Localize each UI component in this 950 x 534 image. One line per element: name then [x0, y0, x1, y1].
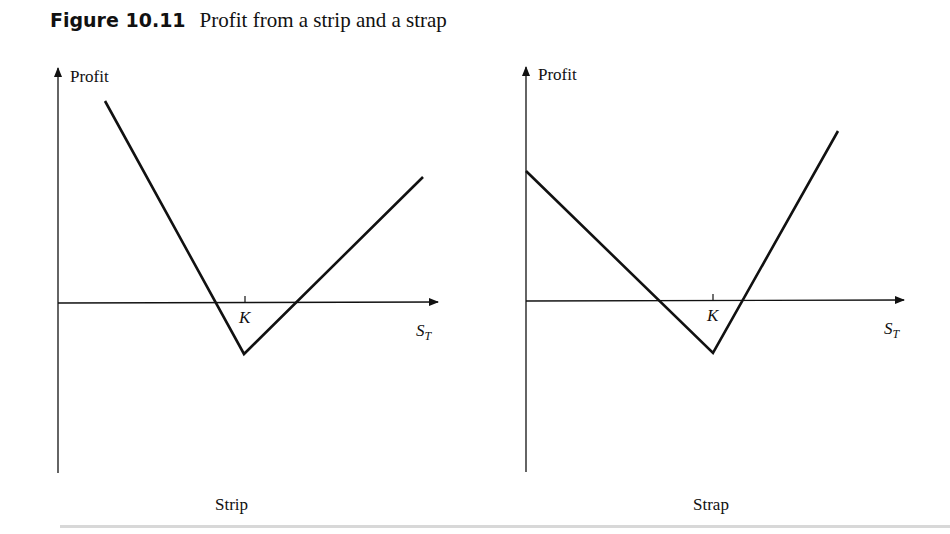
strip-k-label: K [238, 308, 252, 327]
strap-x-axis [526, 300, 904, 301]
strip-x-label: ST [416, 321, 433, 343]
bottom-divider [60, 525, 950, 528]
strap-profit-line [526, 131, 838, 353]
strap-k-label: K [706, 306, 720, 325]
strip-x-axis [58, 302, 438, 303]
strip-chart: Profit K ST [58, 67, 438, 473]
strap-y-label: Profit [538, 65, 577, 84]
strip-profit-line [105, 101, 423, 354]
strip-caption: Strip [215, 495, 248, 515]
strap-x-label: ST [884, 319, 901, 341]
strap-chart: Profit K ST [526, 65, 904, 472]
strip-y-label: Profit [70, 67, 109, 86]
strap-caption: Strap [693, 495, 729, 515]
figure-svg: Profit K ST Profit K ST [0, 0, 950, 534]
